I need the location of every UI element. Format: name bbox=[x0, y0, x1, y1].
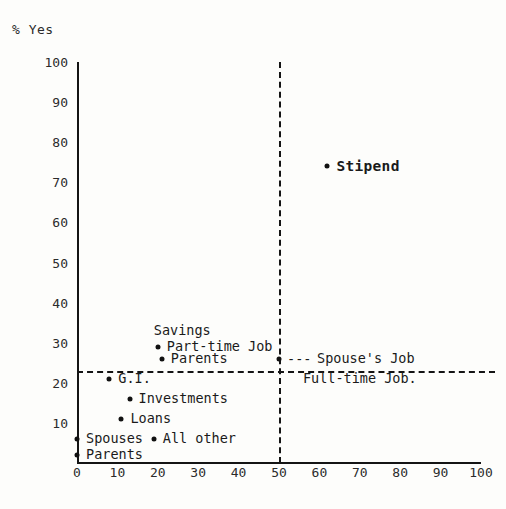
data-point-dot[interactable] bbox=[151, 436, 156, 441]
leader-dashes: --- bbox=[287, 351, 311, 367]
y-tick-40: 40 bbox=[52, 295, 68, 310]
y-tick-100: 100 bbox=[45, 55, 68, 70]
data-point-label: Spouse's Job bbox=[317, 352, 415, 366]
data-point-label: Parents bbox=[171, 352, 228, 366]
x-tick-60: 60 bbox=[312, 465, 328, 480]
data-point-dot[interactable] bbox=[119, 416, 124, 421]
data-point-label: G.I. bbox=[118, 372, 151, 386]
data-point-dot[interactable] bbox=[325, 164, 330, 169]
data-point-dot[interactable] bbox=[159, 356, 164, 361]
x-tick-40: 40 bbox=[231, 465, 247, 480]
data-point-label: Investments bbox=[139, 392, 228, 406]
y-tick-50: 50 bbox=[52, 255, 68, 270]
y-tick-80: 80 bbox=[52, 135, 68, 150]
x-tick-30: 30 bbox=[190, 465, 206, 480]
x-tick-20: 20 bbox=[150, 465, 166, 480]
y-axis-title: % Yes bbox=[12, 22, 54, 37]
y-axis-line bbox=[77, 62, 79, 463]
data-point-dot[interactable] bbox=[127, 396, 132, 401]
reference-line-vertical-50 bbox=[279, 62, 281, 463]
y-tick-90: 90 bbox=[52, 95, 68, 110]
y-tick-70: 70 bbox=[52, 175, 68, 190]
data-point-label: All other bbox=[163, 432, 236, 446]
x-tick-10: 10 bbox=[110, 465, 126, 480]
x-tick-80: 80 bbox=[392, 465, 408, 480]
data-point-dot[interactable] bbox=[277, 356, 282, 361]
data-point-dot[interactable] bbox=[75, 436, 80, 441]
x-tick-50: 50 bbox=[271, 465, 287, 480]
y-tick-30: 30 bbox=[52, 335, 68, 350]
x-tick-90: 90 bbox=[433, 465, 449, 480]
data-point-dot[interactable] bbox=[155, 344, 160, 349]
chart-page: % Yes 102030405060708090100 010203040506… bbox=[0, 0, 506, 509]
plot-area: 102030405060708090100 010203040506070809… bbox=[77, 62, 481, 463]
x-tick-70: 70 bbox=[352, 465, 368, 480]
y-tick-10: 10 bbox=[52, 415, 68, 430]
data-point-dot[interactable] bbox=[75, 452, 80, 457]
data-point-label: Parents bbox=[86, 448, 143, 462]
data-point-label: Spouses bbox=[86, 432, 143, 446]
data-point-dot[interactable] bbox=[107, 376, 112, 381]
x-tick-0: 0 bbox=[73, 465, 81, 480]
x-tick-100: 100 bbox=[469, 465, 492, 480]
data-point-label: Savings bbox=[154, 324, 211, 338]
data-point-label: Stipend bbox=[336, 159, 399, 174]
y-tick-60: 60 bbox=[52, 215, 68, 230]
data-point-label: Full-time Job. bbox=[303, 372, 417, 386]
data-point-label: Loans bbox=[130, 412, 171, 426]
y-tick-20: 20 bbox=[52, 375, 68, 390]
